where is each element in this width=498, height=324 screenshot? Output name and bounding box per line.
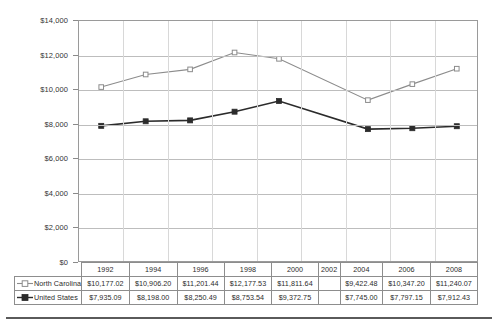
gridline — [79, 125, 477, 126]
data-point-marker — [410, 82, 415, 87]
data-point-marker — [366, 98, 371, 103]
data-point-marker — [232, 109, 237, 114]
legend-series-label: United States — [34, 293, 78, 302]
y-axis: $0$2,000$4,000$6,000$8,000$10,000$12,000… — [0, 0, 78, 282]
table-cell-value: $7,797.15 — [383, 291, 431, 305]
y-axis-tick-label: $2,000 — [44, 223, 68, 232]
table-year-header: 2000 — [272, 263, 318, 277]
table-cell-value: $8,250.49 — [177, 291, 224, 305]
plot-area — [78, 20, 478, 262]
table-year-header: 2006 — [383, 263, 431, 277]
table-year-header: 2008 — [430, 263, 477, 277]
open-square-marker-icon — [17, 279, 33, 288]
table-cell-value — [318, 277, 340, 291]
legend-series-label: North Carolina — [34, 279, 81, 288]
y-axis-tick-label: $4,000 — [44, 188, 68, 197]
data-point-marker — [188, 67, 193, 72]
data-table: 199219941996199820002002200420062008Nort… — [14, 262, 478, 305]
column-separator — [257, 21, 258, 261]
chart-figure: $0$2,000$4,000$6,000$8,000$10,000$12,000… — [0, 0, 498, 324]
table-year-header: 1992 — [82, 263, 130, 277]
table-cell-value: $11,811.64 — [272, 277, 318, 291]
data-point-marker — [410, 126, 415, 131]
table-corner-cell — [15, 263, 82, 277]
table-year-header: 2004 — [340, 263, 383, 277]
data-point-marker — [188, 118, 193, 123]
table-cell-value: $10,906.20 — [129, 277, 177, 291]
data-point-marker — [365, 127, 370, 132]
table-cell-value: $12,177.53 — [224, 277, 272, 291]
table-year-header: 1998 — [224, 263, 272, 277]
table-cell-value: $10,177.02 — [82, 277, 130, 291]
column-separator — [123, 21, 124, 261]
column-separator — [435, 21, 436, 261]
table-row: North Carolina$10,177.02$10,906.20$11,20… — [15, 277, 478, 291]
gridline — [79, 228, 477, 229]
column-separator — [301, 21, 302, 261]
gridline — [79, 159, 477, 160]
table-row-years: 199219941996199820002002200420062008 — [15, 263, 478, 277]
y-axis-tick-label: $12,000 — [40, 50, 68, 59]
y-axis-tick-label: $10,000 — [40, 85, 68, 94]
column-separator — [346, 21, 347, 261]
data-point-marker — [232, 50, 237, 55]
column-separator — [390, 21, 391, 261]
table-cell-value: $7,935.09 — [82, 291, 130, 305]
gridline — [79, 56, 477, 57]
table-year-header: 2002 — [318, 263, 340, 277]
table-cell-value: $7,912.43 — [430, 291, 477, 305]
data-point-marker — [143, 119, 148, 124]
gridline — [79, 90, 477, 91]
bottom-divider — [6, 317, 492, 319]
table-cell-value: $11,201.44 — [177, 277, 224, 291]
legend-row-header: North Carolina — [15, 277, 82, 291]
y-axis-tick-label: $14,000 — [40, 16, 68, 25]
column-separator — [212, 21, 213, 261]
y-axis-tick-label: $6,000 — [44, 154, 68, 163]
data-point-marker — [454, 66, 459, 71]
table-cell-value: $9,422.48 — [340, 277, 383, 291]
filled-square-marker-icon — [17, 293, 33, 302]
y-axis-tick-label: $8,000 — [44, 119, 68, 128]
table-year-header: 1994 — [129, 263, 177, 277]
gridline — [79, 194, 477, 195]
table-cell-value: $7,745.00 — [340, 291, 383, 305]
table-cell-value — [318, 291, 340, 305]
table-cell-value: $8,753.54 — [224, 291, 272, 305]
table-cell-value: $9,372.75 — [272, 291, 318, 305]
data-point-marker — [277, 57, 282, 62]
table-cell-value: $10,347.20 — [383, 277, 431, 291]
data-point-marker — [143, 72, 148, 77]
legend-row-header: United States — [15, 291, 82, 305]
table-cell-value: $8,198.00 — [129, 291, 177, 305]
data-point-marker — [99, 85, 104, 90]
table-row: United States$7,935.09$8,198.00$8,250.49… — [15, 291, 478, 305]
table-cell-value: $11,240.07 — [430, 277, 477, 291]
column-separator — [168, 21, 169, 261]
table-year-header: 1996 — [177, 263, 224, 277]
chart-series-svg — [79, 21, 479, 263]
data-point-marker — [277, 98, 282, 103]
